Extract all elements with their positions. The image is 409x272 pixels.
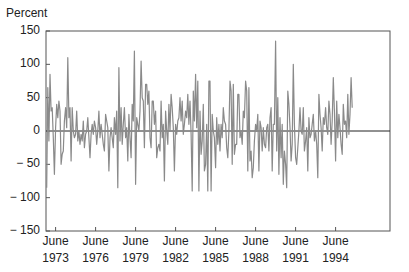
x-tick-label: June1985 xyxy=(196,233,236,267)
x-tick-label: June1991 xyxy=(276,233,316,267)
line-chart xyxy=(0,0,409,272)
x-tick-label: June1994 xyxy=(316,233,356,267)
x-tick-label: June1973 xyxy=(36,233,76,267)
y-tick-label: 150 xyxy=(0,23,40,37)
y-tick-label: − 50 xyxy=(0,156,40,170)
x-tick-label: June1988 xyxy=(236,233,276,267)
y-tick-label: 50 xyxy=(0,90,40,104)
y-tick-label: − 100 xyxy=(0,190,40,204)
y-axis-label: Percent xyxy=(6,6,47,20)
x-tick-label: June1979 xyxy=(116,233,156,267)
data-series-line xyxy=(47,41,353,191)
x-tick-label: June1976 xyxy=(76,233,116,267)
y-tick-label: 100 xyxy=(0,56,40,70)
y-tick-label: 0 xyxy=(0,123,40,137)
y-tick-label: − 150 xyxy=(0,223,40,237)
x-tick-label: June1982 xyxy=(156,233,196,267)
